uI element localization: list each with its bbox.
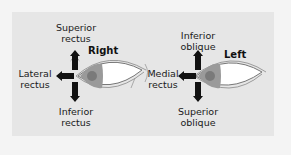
label-line: rectus xyxy=(145,79,181,90)
medial-rectus-label: Medial rectus xyxy=(145,68,181,90)
superior-rectus-label: Superior rectus xyxy=(55,22,97,44)
label-line: Superior xyxy=(177,106,219,117)
left-eye-label: Left xyxy=(224,49,246,60)
label-line: oblique xyxy=(177,41,219,52)
superior-oblique-label: Superior oblique xyxy=(177,106,219,128)
right-eye-icon xyxy=(76,60,148,88)
label-line: Superior xyxy=(55,22,97,33)
label-line: rectus xyxy=(55,117,97,128)
inferior-oblique-label: Inferior oblique xyxy=(177,30,219,52)
label-line: Lateral xyxy=(14,68,56,79)
label-line: Inferior xyxy=(177,30,219,41)
lateral-rectus-label: Lateral rectus xyxy=(14,68,56,90)
label-line: Medial xyxy=(145,68,181,79)
label-line: rectus xyxy=(14,79,56,90)
label-line: oblique xyxy=(177,117,219,128)
inferior-rectus-label: Inferior rectus xyxy=(55,106,97,128)
right-eye-label: Right xyxy=(88,45,118,56)
label-line: Inferior xyxy=(55,106,97,117)
label-line: rectus xyxy=(55,33,97,44)
